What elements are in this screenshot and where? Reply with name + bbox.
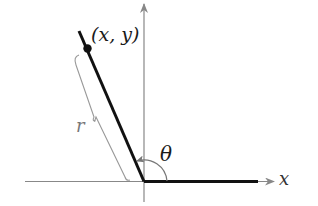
- theta-label: θ: [160, 144, 172, 164]
- diagram-svg: [0, 0, 318, 206]
- angle-diagram: (x, y) θ r x: [0, 0, 318, 206]
- terminal-side: [79, 31, 144, 182]
- point-label: (x, y): [91, 25, 139, 44]
- radius-label: r: [76, 117, 85, 135]
- x-axis-label: x: [279, 170, 289, 188]
- terminal-point: [83, 44, 91, 52]
